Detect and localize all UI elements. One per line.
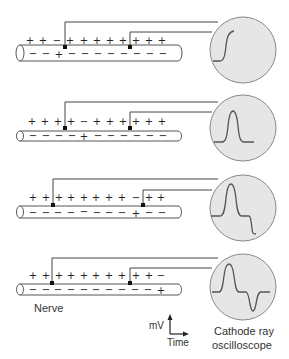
svg-text:+: + [105,270,113,281]
svg-text:+: + [158,35,166,46]
svg-text:−: − [131,284,139,295]
svg-text:−: − [42,130,50,141]
inside-charges: − − + − − − − − − − − [29,48,167,60]
oscilloscope-label-line2: oscilloscope [212,339,272,351]
svg-text:−: − [55,130,63,141]
svg-text:+: + [55,49,63,60]
svg-text:−: − [68,130,76,141]
svg-text:+: + [145,270,153,281]
panel-3: + + + + + + + + − + + − − − − − − − − + … [17,175,277,241]
svg-text:+: + [157,285,165,296]
svg-text:+: + [118,270,126,281]
oscilloscope-screen [210,17,276,83]
svg-text:−: − [118,207,126,218]
svg-text:−: − [132,192,140,203]
svg-text:−: − [29,130,37,141]
electrode-wire-2 [143,190,212,206]
panel-2: + + + + − + + + + + + − − − − + − − − − … [17,95,277,161]
svg-text:−: − [118,284,126,295]
svg-text:+: + [132,270,140,281]
electrode-wire-2 [130,268,212,283]
axis-indicator [168,314,190,337]
y-axis-label: mV [149,320,164,332]
svg-text:−: − [159,130,167,141]
svg-text:+: + [67,116,75,127]
svg-text:+: + [132,116,140,127]
svg-text:+: + [106,35,114,46]
svg-text:−: − [67,284,75,295]
svg-text:+: + [158,116,166,127]
svg-text:−: − [159,48,167,59]
oscilloscope-screen [210,175,276,241]
svg-text:+: + [41,116,49,127]
svg-text:+: + [145,116,153,127]
svg-text:+: + [80,35,88,46]
svg-text:+: + [119,116,127,127]
x-axis-label: Time [167,337,189,349]
svg-text:+: + [39,35,47,46]
svg-text:−: − [145,207,153,218]
svg-text:+: + [54,116,62,127]
svg-text:+: + [26,35,34,46]
svg-text:−: − [42,48,50,59]
nerve-label: Nerve [34,302,63,314]
outside-charges: + + + + + + + + − + + [29,192,165,203]
svg-text:−: − [133,48,141,59]
electrode-wire-2 [130,112,212,128]
svg-text:−: − [42,207,50,218]
svg-text:−: − [144,284,152,295]
svg-text:+: + [28,116,36,127]
svg-text:−: − [29,48,37,59]
outside-charges: + + + + + + + + + + − [29,270,165,281]
svg-text:−: − [68,48,76,59]
svg-text:+: + [93,35,101,46]
svg-text:+: + [42,192,50,203]
svg-text:+: + [106,116,114,127]
svg-text:−: − [67,207,75,218]
svg-text:+: + [93,116,101,127]
svg-text:−: − [42,284,50,295]
inside-charges: − − − − + − − − − − − [29,130,167,142]
oscilloscope-screen [210,95,276,161]
svg-text:−: − [93,207,101,218]
svg-text:+: + [118,192,126,203]
svg-text:−: − [53,35,61,46]
oscilloscope-screen [210,254,276,320]
svg-text:−: − [29,207,37,218]
svg-text:−: − [54,284,62,295]
svg-text:−: − [158,207,166,218]
svg-text:−: − [105,207,113,218]
panel-1: + + − + + + + + + + + − − + − − − − − − … [16,17,276,83]
svg-text:−: − [92,284,100,295]
svg-text:−: − [107,48,115,59]
svg-text:−: − [54,207,62,218]
svg-text:+: + [132,35,140,46]
svg-text:−: − [120,130,128,141]
svg-text:+: + [42,270,50,281]
svg-text:+: + [157,192,165,203]
svg-text:−: − [107,130,115,141]
svg-text:+: + [92,270,100,281]
svg-text:+: + [66,35,74,46]
svg-text:+: + [132,208,140,219]
svg-text:+: + [145,192,153,203]
outside-charges: + + + + − + + + + + + [28,116,166,127]
svg-text:−: − [105,284,113,295]
svg-text:+: + [67,192,75,203]
svg-text:+: + [29,270,37,281]
svg-text:+: + [55,192,63,203]
svg-text:+: + [55,270,63,281]
svg-text:−: − [157,270,165,281]
oscilloscope-label-line1: Cathode ray [214,325,274,337]
svg-text:−: − [80,284,88,295]
svg-text:+: + [29,192,37,203]
svg-text:+: + [80,270,88,281]
inside-charges: − − − − − − − − + − − [29,206,166,219]
svg-text:−: − [120,48,128,59]
svg-text:−: − [80,116,88,127]
svg-text:+: + [105,192,113,203]
inside-charges: − − − − − − − − − − + [29,284,165,296]
svg-text:−: − [146,48,154,59]
svg-text:−: − [29,284,37,295]
svg-text:−: − [80,206,88,217]
